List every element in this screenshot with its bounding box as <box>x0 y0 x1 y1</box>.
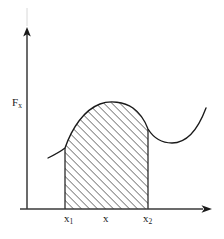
y-axis-label-subscript: x <box>18 101 22 110</box>
y-axis-label: Fx <box>12 97 22 110</box>
x-tick-label-x1-subscript: 1 <box>70 217 74 226</box>
figure-canvas <box>0 0 224 239</box>
x-tick-label-x-text: x <box>103 212 109 224</box>
work-area-shading <box>65 102 148 209</box>
x-tick-label-x2: x2 <box>143 213 152 226</box>
y-axis <box>23 8 31 209</box>
x-axis-arrowhead <box>202 205 213 213</box>
x-tick-label-x1: x1 <box>64 213 73 226</box>
x-tick-label-x: x <box>103 213 109 226</box>
force-position-figure: Fx x1 x x2 <box>0 0 224 239</box>
x-tick-label-x2-subscript: 2 <box>149 217 153 226</box>
